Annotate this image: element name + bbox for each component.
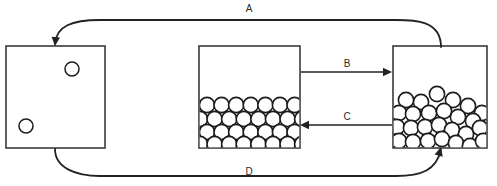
disordered-liquid-container-group[interactable] (389, 46, 490, 154)
gas-container[interactable] (6, 46, 105, 148)
ordered-particle (295, 136, 310, 151)
transition-b-arrowhead (383, 68, 392, 76)
ordered-particle (243, 97, 258, 112)
diagram-canvas: A B C D (0, 0, 497, 186)
ordered-particle (222, 136, 237, 151)
transition-label-d: D (245, 166, 252, 177)
gas-particle (19, 119, 33, 133)
disordered-particle (429, 86, 444, 101)
phase-transition-diagram: A B C D (0, 0, 497, 186)
disordered-particle (389, 119, 404, 134)
disordered-particle (403, 120, 418, 135)
disordered-particle (417, 119, 432, 134)
disordered-particle (475, 133, 490, 148)
ordered-particle (258, 97, 273, 112)
transition-label-c: C (343, 111, 350, 122)
ordered-particle (199, 97, 214, 112)
ordered-solid-container-group[interactable] (192, 46, 309, 152)
transition-c-arrowhead-shape (300, 121, 309, 129)
ordered-particle (229, 97, 244, 112)
disordered-particle (434, 131, 449, 146)
transition-label-b: B (344, 58, 351, 69)
ordered-particle (207, 136, 222, 151)
ordered-particle (280, 136, 295, 151)
ordered-particle (272, 97, 287, 112)
disordered-particle (420, 133, 435, 148)
ordered-particle-group (192, 97, 309, 151)
ordered-particle (214, 97, 229, 112)
gas-container-group[interactable] (6, 46, 105, 148)
ordered-particle (236, 136, 251, 151)
gas-particle (65, 62, 79, 76)
transition-a-path[interactable] (55, 20, 441, 47)
transition-b-arrowhead-shape (383, 68, 392, 76)
disordered-particle (436, 103, 451, 118)
ordered-particle (265, 136, 280, 151)
transition-a-arrowhead (51, 37, 60, 47)
transition-label-a: A (246, 3, 253, 14)
ordered-particle (251, 136, 266, 151)
disordered-particle (405, 106, 420, 121)
transition-c-arrowhead (300, 121, 309, 129)
transition-a-arrowhead-shape (51, 37, 60, 47)
ordered-particle (192, 136, 207, 151)
